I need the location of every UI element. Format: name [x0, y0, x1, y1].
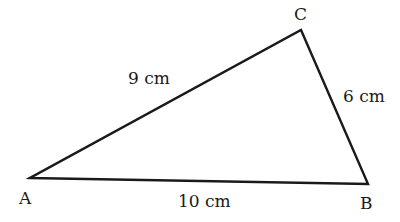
vertex-label-b: B: [360, 195, 373, 212]
side-label-ab: 10 cm: [178, 193, 231, 210]
vertex-label-c: C: [294, 6, 307, 23]
vertex-label-a: A: [19, 190, 31, 207]
side-label-ac: 9 cm: [128, 70, 170, 87]
side-label-cb: 6 cm: [343, 88, 385, 105]
triangle-figure: [0, 0, 400, 222]
triangle-abc: [30, 30, 368, 184]
